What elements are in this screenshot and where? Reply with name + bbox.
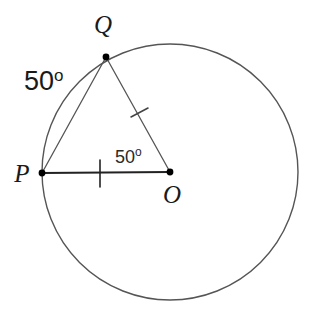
degree-symbol-qop: o [135,145,142,159]
tick-mark-qo [131,108,148,117]
point-label-o: O [163,181,181,208]
angle-label-arc-pq: 50o [24,66,64,97]
geometry-diagram: P Q O 50o 50o [0,0,312,314]
point-q [103,54,110,61]
angle-value-qop: 50 [115,147,135,167]
angle-value-arc-pq: 50 [24,66,54,96]
point-label-p: P [13,160,29,187]
degree-symbol-arc-pq: o [54,66,63,85]
point-o [167,169,174,176]
geometry-canvas: P Q O 50o 50o [0,0,312,314]
point-p [39,170,46,177]
angle-label-qop: 50o [115,145,142,167]
segment-po [42,172,170,173]
point-label-q: Q [94,11,112,38]
